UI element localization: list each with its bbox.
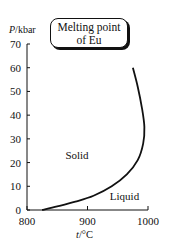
- y-tick-label: 30: [3, 133, 21, 145]
- title-line-2: of Eu: [51, 34, 127, 47]
- x-tick-label: 1000: [133, 215, 163, 227]
- x-axis-label: t/°C: [76, 229, 93, 241]
- liquid-region-label: Liquid: [110, 190, 139, 202]
- melting-curve: [42, 68, 144, 210]
- y-tick-label: 70: [3, 38, 21, 50]
- y-tick-label: 10: [3, 180, 21, 192]
- y-axis-label: P/kbar: [9, 24, 36, 36]
- chart: 010203040506070 8009001000 P/kbar t/°C M…: [0, 0, 170, 247]
- title-line-1: Melting point: [51, 21, 127, 34]
- chart-title: Melting point of Eu: [50, 18, 128, 48]
- x-tick-label: 800: [12, 215, 42, 227]
- y-axis: [27, 44, 30, 210]
- x-tick-label: 900: [73, 215, 103, 227]
- y-tick-label: 20: [3, 157, 21, 169]
- y-tick-label: 50: [3, 85, 21, 97]
- y-tick-label: 60: [3, 62, 21, 74]
- solid-region-label: Solid: [65, 149, 88, 161]
- y-tick-label: 40: [3, 109, 21, 121]
